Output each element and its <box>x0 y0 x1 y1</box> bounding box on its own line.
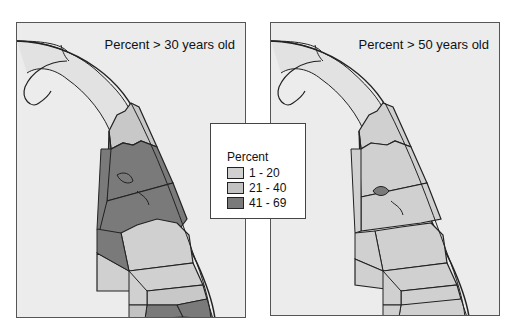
panel-title-over-50: Percent > 50 years old <box>359 37 489 52</box>
legend-item-21-40: 21 - 40 <box>227 181 286 195</box>
map-legend: Percent 1 - 20 21 - 40 41 - 69 <box>210 123 306 219</box>
legend-title: Percent <box>227 150 268 164</box>
legend-label: 41 - 69 <box>249 196 286 210</box>
legend-swatch-low <box>227 167 244 179</box>
panel-title-over-30: Percent > 30 years old <box>105 37 235 52</box>
legend-label: 21 - 40 <box>249 181 286 195</box>
legend-item-41-69: 41 - 69 <box>227 196 286 210</box>
legend-swatch-mid <box>227 182 244 194</box>
legend-item-1-20: 1 - 20 <box>227 166 280 180</box>
legend-label: 1 - 20 <box>249 166 280 180</box>
legend-swatch-high <box>227 197 244 209</box>
